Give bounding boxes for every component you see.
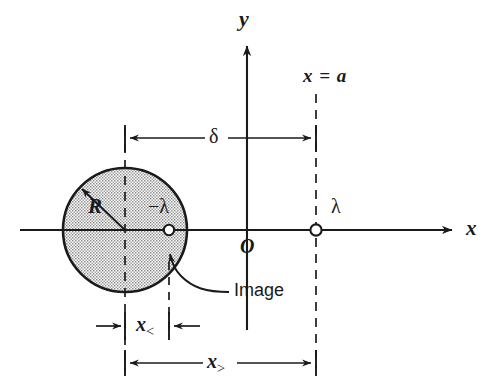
x-less-label: x<: [136, 314, 154, 338]
x-axis-label: x: [466, 218, 477, 239]
delta-dimension: [125, 125, 316, 152]
x-greater-subscript: >: [217, 360, 225, 376]
radius-label: R: [88, 196, 102, 217]
delta-label: δ: [209, 126, 218, 146]
x-less-subscript: <: [146, 323, 154, 339]
real-charge-marker: [310, 224, 321, 235]
x-greater-base: x: [207, 350, 217, 372]
x-greater-label: x>: [207, 351, 225, 375]
origin-label: O: [240, 236, 254, 256]
figure-canvas: y x O x = a δ R −λ λ Image x< x>: [0, 0, 494, 391]
y-axis-label: y: [239, 8, 249, 30]
image-charge-label: −λ: [148, 196, 169, 216]
diagram-vector-layer: [0, 0, 494, 391]
image-charge-marker: [164, 225, 174, 235]
real-charge-label: λ: [331, 196, 341, 216]
image-callout-label: Image: [234, 281, 284, 299]
x-equals-a-label: x = a: [303, 66, 347, 85]
x-less-base: x: [136, 313, 146, 335]
